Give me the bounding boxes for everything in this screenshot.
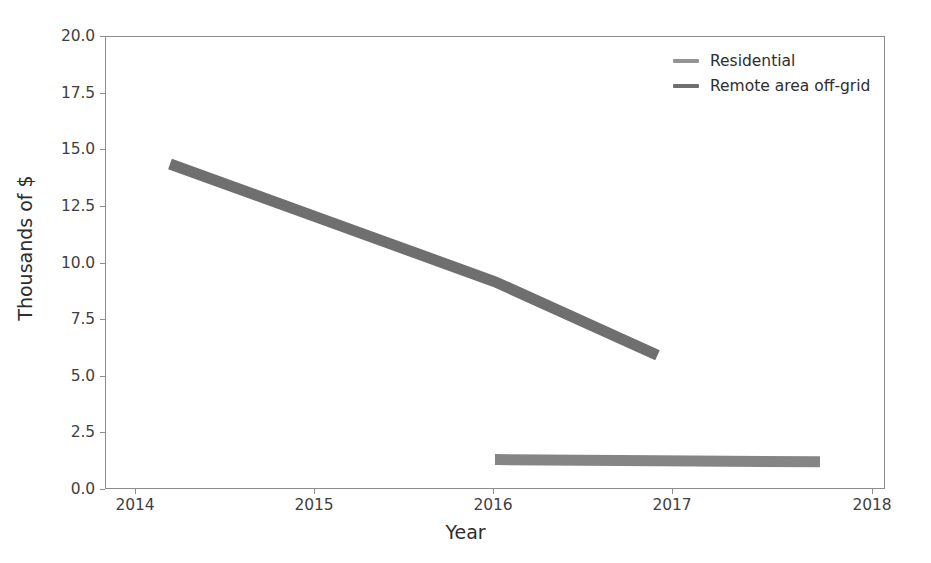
chart-figure: 2014 2015 2016 2017 2018 0.0 2.5 5.0 7.5… — [0, 0, 931, 563]
y-tick-7-5 — [100, 319, 105, 320]
plot-area — [105, 36, 885, 489]
x-tick-2015 — [314, 489, 315, 494]
x-tick-2014 — [135, 489, 136, 494]
x-axis-title: Year — [0, 521, 931, 543]
x-tick-label-2016: 2016 — [473, 496, 512, 514]
legend-label-residential: Residential — [710, 52, 795, 70]
x-tick-2016 — [493, 489, 494, 494]
y-tick-12-5 — [100, 206, 105, 207]
x-tick-2017 — [672, 489, 673, 494]
legend-entry-residential: Residential — [673, 48, 870, 73]
y-tick-label-15: 15.0 — [35, 140, 95, 158]
y-tick-20 — [100, 36, 105, 37]
legend-label-remote-area-off-grid: Remote area off-grid — [710, 77, 870, 95]
y-tick-label-12-5: 12.5 — [35, 197, 95, 215]
y-tick-label-5: 5.0 — [35, 367, 95, 385]
y-tick-17-5 — [100, 93, 105, 94]
y-tick-label-10: 10.0 — [35, 254, 95, 272]
y-tick-15 — [100, 149, 105, 150]
x-tick-label-2017: 2017 — [652, 496, 691, 514]
y-tick-2-5 — [100, 432, 105, 433]
legend-swatch-remote-area-off-grid — [673, 84, 699, 88]
y-tick-label-7-5: 7.5 — [35, 310, 95, 328]
y-tick-0 — [100, 489, 105, 490]
legend-entry-remote-area-off-grid: Remote area off-grid — [673, 73, 870, 98]
chart-legend: Residential Remote area off-grid — [669, 46, 876, 102]
y-tick-label-17-5: 17.5 — [35, 84, 95, 102]
y-axis-title: Thousands of $ — [14, 18, 36, 478]
x-tick-2018 — [872, 489, 873, 494]
y-tick-label-0: 0.0 — [35, 480, 95, 498]
legend-swatch-residential — [673, 59, 699, 63]
y-tick-10 — [100, 263, 105, 264]
y-tick-5 — [100, 376, 105, 377]
x-tick-label-2014: 2014 — [115, 496, 154, 514]
y-tick-label-20: 20.0 — [35, 27, 95, 45]
y-tick-label-2-5: 2.5 — [35, 423, 95, 441]
x-tick-label-2015: 2015 — [294, 496, 333, 514]
x-tick-label-2018: 2018 — [852, 496, 891, 514]
